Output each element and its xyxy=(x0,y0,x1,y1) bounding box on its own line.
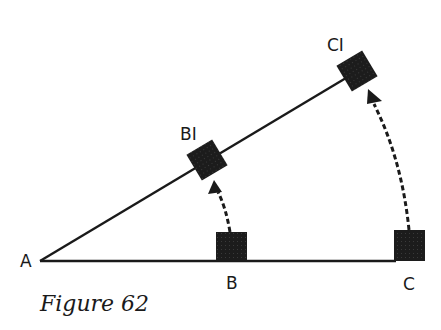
slanted-line-AC1 xyxy=(40,78,346,261)
square-B1 xyxy=(186,139,227,180)
arrowhead-C1-icon xyxy=(367,89,382,104)
label-C1: CI xyxy=(327,35,344,55)
label-C: C xyxy=(403,274,415,294)
square-B xyxy=(216,232,247,261)
square-C xyxy=(394,230,425,261)
figure-caption: Figure 62 xyxy=(40,291,149,316)
label-B: B xyxy=(226,273,238,293)
label-A: A xyxy=(20,251,32,271)
arrowhead-B1-icon xyxy=(208,180,222,194)
square-C1 xyxy=(336,50,377,91)
dashed-arc-B-to-B1 xyxy=(218,192,230,232)
dashed-arc-C-to-C1 xyxy=(374,104,409,230)
rotation-diagram: A B C BI CI xyxy=(0,0,441,330)
label-B1: BI xyxy=(180,124,197,144)
